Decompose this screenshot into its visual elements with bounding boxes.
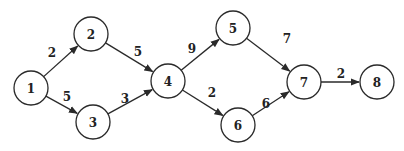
node-label: 3 (89, 116, 97, 130)
node-3: 3 (76, 105, 110, 139)
edge-weight-label: 2 (208, 86, 216, 100)
node-label: 7 (300, 76, 308, 90)
edge-weight-label: 9 (188, 42, 196, 56)
edge-6-7 (252, 92, 289, 116)
edge-weight-label: 5 (63, 90, 71, 104)
node-label: 8 (373, 76, 381, 90)
edge-weight-label: 2 (337, 67, 345, 81)
graph-diagram: 255392762 12345678 (0, 0, 404, 151)
node-8: 8 (360, 65, 394, 99)
node-label: 2 (87, 28, 95, 42)
graph-canvas: 255392762 12345678 (0, 0, 404, 151)
edge-weight-label: 3 (121, 92, 129, 106)
edge-2-4 (106, 43, 153, 72)
node-1: 1 (14, 71, 48, 105)
node-label: 1 (27, 82, 35, 96)
edge-1-3 (46, 96, 77, 113)
node-5: 5 (216, 11, 250, 45)
node-4: 4 (151, 64, 185, 98)
node-label: 4 (164, 75, 172, 89)
node-6: 6 (221, 108, 255, 142)
edge-3-4 (108, 90, 152, 114)
edge-weight-label: 6 (262, 97, 270, 111)
node-2: 2 (74, 17, 108, 51)
node-7: 7 (287, 65, 321, 99)
edge-weight-label: 5 (134, 45, 142, 59)
edge-weight-label: 2 (48, 46, 56, 60)
edge-4-6 (182, 90, 222, 115)
edge-weight-label: 7 (283, 32, 291, 46)
node-label: 6 (234, 119, 242, 133)
node-label: 5 (229, 22, 237, 36)
